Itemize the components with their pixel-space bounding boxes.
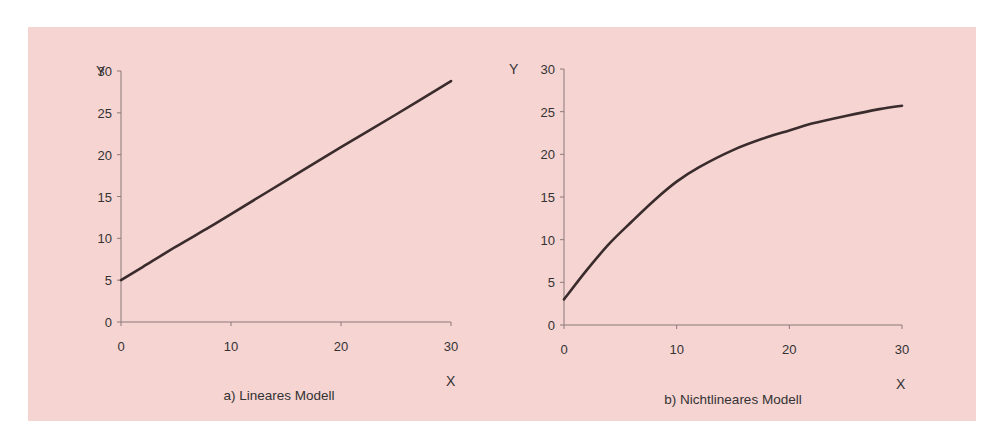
y-tick-label: 5 (105, 273, 112, 288)
x-tick-label: 0 (560, 342, 567, 357)
x-tick-label: 20 (334, 339, 348, 354)
y-tick-label: 30 (541, 62, 555, 77)
chart-a-x-axis-title: X (446, 373, 456, 389)
chart-b-caption: b) Nichtlineares Modell (664, 392, 801, 407)
y-tick-label: 5 (548, 275, 555, 290)
chart-b-axes (560, 69, 902, 329)
x-tick-label: 20 (782, 342, 796, 357)
chart-a-axes (117, 71, 451, 326)
chart-b-curve (564, 106, 902, 300)
chart-nonlinear-model: 0510152025300102030 Y X b) Nichtlineares… (509, 61, 909, 407)
y-tick-label: 10 (541, 233, 555, 248)
x-tick-label: 0 (117, 339, 124, 354)
x-tick-label: 30 (444, 339, 458, 354)
x-tick-label: 30 (895, 342, 909, 357)
chart-b-x-axis-title: X (896, 376, 906, 392)
x-tick-label: 10 (224, 339, 238, 354)
chart-a-y-axis-title: Y (96, 63, 106, 79)
chart-a-tick-labels: 0510152025300102030 (98, 64, 459, 354)
chart-b-tick-labels: 0510152025300102030 (541, 62, 910, 357)
y-tick-label: 15 (98, 190, 112, 205)
chart-b-y-axis-title: Y (509, 61, 519, 77)
y-tick-label: 25 (541, 105, 555, 120)
y-tick-label: 0 (548, 318, 555, 333)
y-tick-label: 25 (98, 106, 112, 121)
y-tick-label: 15 (541, 190, 555, 205)
y-tick-label: 20 (98, 148, 112, 163)
chart-a-line (121, 81, 451, 280)
y-tick-label: 20 (541, 147, 555, 162)
figure-canvas: 0510152025300102030 Y X a) Lineares Mode… (0, 0, 1004, 445)
x-tick-label: 10 (669, 342, 683, 357)
chart-a-caption: a) Lineares Modell (223, 388, 334, 403)
y-tick-label: 0 (105, 315, 112, 330)
chart-linear-model: 0510152025300102030 Y X a) Lineares Mode… (96, 63, 458, 403)
y-tick-label: 10 (98, 231, 112, 246)
